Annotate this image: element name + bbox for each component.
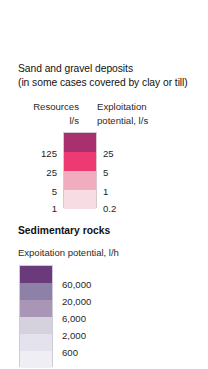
scale-label-exploitation: 5 — [103, 168, 173, 178]
sand-column-headers: Resources l/s Exploitation potential, l/… — [0, 100, 208, 130]
sedimentary-color-scale: 60,000 20,000 6,000 2,000 600 — [0, 265, 208, 369]
scale-label-resources: 125 — [0, 149, 57, 159]
sand-color-scale: 125 25 5 1 25 5 1 0.2 — [0, 132, 208, 210]
scale-label-exploitation: 1 — [103, 187, 173, 197]
scale-label-sedimentary: 20,000 — [62, 297, 172, 307]
color-swatch — [64, 190, 96, 209]
sedimentary-swatch-column — [19, 265, 53, 367]
column-header-exploitation: Exploitation potential, l/s — [97, 100, 197, 126]
column-header-exploitation-line-1: Exploitation — [97, 101, 147, 112]
scale-label-resources: 5 — [0, 187, 57, 197]
scale-label-sedimentary: 6,000 — [62, 314, 172, 324]
color-swatch — [64, 152, 96, 171]
scale-label-sedimentary: 2,000 — [62, 331, 172, 341]
sedimentary-section-title: Sedimentary rocks — [0, 224, 208, 238]
column-header-exploitation-units: potential, l/s — [97, 114, 197, 127]
color-swatch — [64, 133, 96, 152]
sand-section-title: Sand and gravel deposits (in some cases … — [0, 62, 208, 90]
color-swatch — [20, 317, 52, 334]
color-swatch — [20, 283, 52, 300]
sand-swatch-column — [63, 132, 97, 208]
sand-title-line-1: Sand and gravel deposits — [18, 62, 208, 76]
color-swatch — [20, 300, 52, 317]
scale-label-sedimentary: 60,000 — [62, 280, 172, 290]
legend-section-sand-and-gravel: Sand and gravel deposits (in some cases … — [0, 62, 208, 210]
sedimentary-section-subtitle: Expoitation potential, l/h — [0, 246, 208, 259]
legend-section-sedimentary-rocks: Sedimentary rocks Expoitation potential,… — [0, 224, 208, 369]
scale-label-sedimentary: 600 — [62, 348, 172, 358]
column-header-resources-units: l/s — [0, 114, 79, 127]
color-swatch — [20, 266, 52, 283]
scale-label-exploitation: 0.2 — [103, 204, 173, 214]
color-swatch — [64, 171, 96, 190]
column-header-resources: Resources l/s — [0, 100, 79, 126]
sand-title-line-2: (in some cases covered by clay or till) — [18, 76, 208, 90]
scale-label-resources: 25 — [0, 168, 57, 178]
color-swatch — [20, 351, 52, 368]
column-header-resources-line-1: Resources — [33, 101, 79, 112]
scale-label-resources: 1 — [0, 204, 57, 214]
color-swatch — [20, 334, 52, 351]
scale-label-exploitation: 25 — [103, 149, 173, 159]
